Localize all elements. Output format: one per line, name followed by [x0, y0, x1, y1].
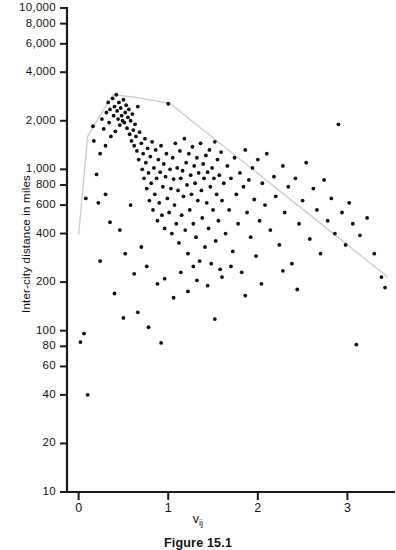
scatter-point — [163, 227, 167, 231]
scatter-point — [347, 201, 351, 205]
scatter-point — [161, 185, 165, 189]
scatter-point — [182, 194, 186, 198]
scatter-point — [354, 343, 358, 347]
scatter-point — [146, 146, 150, 150]
scatter-point — [301, 199, 305, 203]
scatter-point — [213, 140, 217, 144]
scatter-point — [297, 222, 301, 226]
scatter-point — [127, 108, 131, 112]
scatter-point — [118, 123, 122, 127]
scatter-point — [173, 203, 177, 207]
scatter-point — [249, 235, 253, 239]
scatter-point — [82, 332, 86, 336]
scatter-point — [213, 317, 217, 321]
y-tick-label-800: 800 — [36, 179, 56, 191]
y-tick-label-600: 600 — [36, 199, 56, 211]
scatter-point — [204, 154, 208, 158]
scatter-point — [272, 175, 276, 179]
y-tick-label-2000: 2,000 — [26, 115, 56, 127]
scatter-point — [290, 262, 294, 266]
scatter-point — [165, 197, 169, 201]
scatter-point — [208, 148, 212, 152]
scatter-point — [131, 112, 135, 116]
scatter-point — [113, 105, 117, 109]
scatter-point — [191, 145, 195, 149]
scatter-point — [117, 100, 121, 104]
scatter-point — [120, 114, 124, 118]
scatter-point — [234, 192, 238, 196]
scatter-point — [91, 124, 95, 128]
y-tick-label-10: 10 — [43, 486, 56, 498]
scatter-point — [139, 141, 143, 145]
scatter-point — [304, 161, 308, 165]
scatter-point — [169, 187, 173, 191]
scatter-point — [115, 109, 119, 113]
scatter-point — [167, 211, 171, 215]
scatter-point — [340, 211, 344, 215]
scatter-point — [104, 144, 108, 148]
scatter-point — [308, 237, 312, 241]
scatter-point — [145, 265, 149, 269]
scatter-point — [130, 139, 134, 143]
scatter-point — [157, 201, 161, 205]
y-tick-label-60: 60 — [43, 360, 56, 372]
scatter-point — [214, 239, 218, 243]
y-tick-label-4000: 4,000 — [26, 66, 56, 78]
scatter-point — [229, 176, 233, 180]
scatter-point — [222, 181, 226, 185]
scatter-point — [187, 152, 191, 156]
scatter-point — [238, 171, 242, 175]
scatter-point — [166, 102, 170, 106]
scatter-point — [286, 185, 290, 189]
scatter-point — [122, 98, 126, 102]
scatter-point — [219, 150, 223, 154]
scatter-point — [215, 192, 219, 196]
scatter-point — [295, 288, 299, 292]
scatter-point — [119, 106, 123, 110]
scatter-point — [206, 284, 210, 288]
scatter-point — [105, 111, 109, 115]
scatter-point — [183, 228, 187, 232]
y-tick-label-10000: 10,000 — [19, 2, 56, 14]
scatter-point — [123, 111, 127, 115]
scatter-point — [333, 232, 337, 236]
scatter-point — [196, 199, 200, 203]
scatter-point — [217, 173, 221, 177]
scatter-point — [265, 152, 269, 156]
scatter-point — [171, 156, 175, 160]
scatter-point — [181, 169, 185, 173]
scatter-point — [145, 187, 149, 191]
scatter-point — [111, 97, 115, 101]
scatter-point — [168, 167, 172, 171]
scatter-point — [209, 262, 213, 266]
scatter-point — [365, 216, 369, 220]
scatter-point — [132, 144, 136, 148]
scatter-point — [129, 203, 133, 207]
scatter-point — [131, 128, 135, 132]
scatter-point — [96, 201, 100, 205]
scatter-point — [224, 232, 228, 236]
scatter-point — [114, 93, 118, 97]
scatter-point — [358, 233, 362, 237]
scatter-point — [175, 166, 179, 170]
scatter-point — [245, 211, 249, 215]
scatter-point — [225, 164, 229, 168]
scatter-point — [194, 235, 198, 239]
scatter-point — [139, 245, 143, 249]
scatter-point — [326, 219, 330, 223]
scatter-point — [281, 269, 285, 273]
scatter-point — [372, 252, 376, 256]
scatter-point — [164, 175, 168, 179]
scatter-point — [147, 171, 151, 175]
scatter-point — [256, 158, 260, 162]
scatter-point — [159, 341, 163, 345]
scatter-point — [98, 152, 102, 156]
scatter-point — [243, 294, 247, 298]
scatter-point — [319, 252, 323, 256]
scatter-point — [344, 243, 348, 247]
scatter-point — [172, 296, 176, 300]
scatter-point — [337, 122, 341, 126]
scatter-point — [186, 252, 190, 256]
